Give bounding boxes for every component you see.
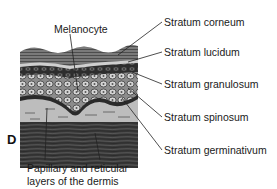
label-dermis-line1: Papillary and reticular [27,162,128,174]
label-dermis-line2: layers of the dermis [27,175,119,187]
label-stratum-lucidum: Stratum lucidum [164,46,240,58]
skin-cross-section-illustration [0,0,277,189]
panel-letter: D [7,132,16,147]
label-stratum-corneum: Stratum corneum [164,16,245,28]
label-stratum-germinativum: Stratum germinativum [164,144,267,156]
label-stratum-spinosum: Stratum spinosum [164,111,249,123]
label-stratum-granulosum: Stratum granulosum [164,78,259,90]
corneum-leader [118,22,162,55]
label-melanocyte: Melanocyte [54,23,108,35]
skin-layers-diagram: Melanocyte Stratum corneum Stratum lucid… [0,0,277,189]
